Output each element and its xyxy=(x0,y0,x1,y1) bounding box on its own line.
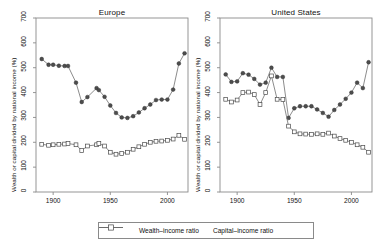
data-point-marker xyxy=(47,63,51,67)
plot-frame xyxy=(220,18,372,192)
data-point-marker xyxy=(137,111,141,115)
data-point-marker xyxy=(47,143,51,147)
series-line xyxy=(42,53,185,118)
data-point-marker xyxy=(350,91,354,95)
data-point-marker xyxy=(367,150,371,154)
data-point-marker xyxy=(126,116,130,120)
data-point-marker xyxy=(120,152,124,156)
data-point-marker xyxy=(51,63,55,67)
data-point-marker xyxy=(247,90,251,94)
data-point-marker xyxy=(103,144,107,148)
data-point-marker xyxy=(108,104,112,108)
data-point-marker xyxy=(270,66,274,70)
data-point-marker xyxy=(57,142,61,146)
data-point-marker xyxy=(264,91,268,95)
data-point-marker xyxy=(230,100,234,104)
data-point-marker xyxy=(321,132,325,136)
data-point-marker xyxy=(154,139,158,143)
data-point-marker xyxy=(74,143,78,147)
data-point-marker xyxy=(154,98,158,102)
legend-label-wealth: Wealth–income ratio xyxy=(139,227,199,234)
data-point-marker xyxy=(355,143,359,147)
data-point-marker xyxy=(298,104,302,108)
data-point-marker xyxy=(57,64,61,68)
data-point-marker xyxy=(298,132,302,136)
data-point-marker xyxy=(264,81,268,85)
data-point-marker xyxy=(148,140,152,144)
data-point-marker xyxy=(126,150,130,154)
data-point-marker xyxy=(143,142,147,146)
data-point-marker xyxy=(275,75,279,79)
legend-label-capital: Capital–income ratio xyxy=(213,227,273,234)
data-point-marker xyxy=(332,134,336,138)
chart-legend: Wealth–income ratio Capital–income ratio xyxy=(98,222,314,239)
data-point-marker xyxy=(252,77,256,81)
data-point-marker xyxy=(270,74,274,78)
data-point-marker xyxy=(171,137,175,141)
data-point-marker xyxy=(252,93,256,97)
data-point-marker xyxy=(281,75,285,79)
data-point-marker xyxy=(224,73,228,77)
data-point-marker xyxy=(338,137,342,141)
data-point-marker xyxy=(224,97,228,101)
data-point-marker xyxy=(258,83,262,87)
data-point-marker xyxy=(327,115,331,119)
data-point-marker xyxy=(247,73,251,77)
data-point-marker xyxy=(332,108,336,112)
data-point-marker xyxy=(40,57,44,61)
data-point-marker xyxy=(310,132,314,136)
data-point-marker xyxy=(183,51,187,55)
data-point-marker xyxy=(143,106,147,110)
plot-canvas xyxy=(0,0,384,252)
data-point-marker xyxy=(241,71,245,75)
data-point-marker xyxy=(177,62,181,66)
data-point-marker xyxy=(344,138,348,142)
data-point-marker xyxy=(40,142,44,146)
data-point-marker xyxy=(177,133,181,137)
data-point-marker xyxy=(350,140,354,144)
data-point-marker xyxy=(292,130,296,134)
data-point-marker xyxy=(160,98,164,102)
data-point-marker xyxy=(321,111,325,115)
data-point-marker xyxy=(166,98,170,102)
data-point-marker xyxy=(86,144,90,148)
data-point-marker xyxy=(80,149,84,153)
data-point-marker xyxy=(148,103,152,107)
data-point-marker xyxy=(367,60,371,64)
data-point-marker xyxy=(361,145,365,149)
legend-item-wealth: Wealth–income ratio xyxy=(139,227,199,234)
data-point-marker xyxy=(183,137,187,141)
data-point-marker xyxy=(327,131,331,135)
chart-root: Europe Wealth or capital divided by nati… xyxy=(0,0,384,252)
data-point-marker xyxy=(344,97,348,101)
data-point-marker xyxy=(258,103,262,107)
data-point-marker xyxy=(338,103,342,107)
data-point-marker xyxy=(166,138,170,142)
data-point-marker xyxy=(281,98,285,102)
legend-item-capital: Capital–income ratio xyxy=(213,227,273,234)
data-point-marker xyxy=(315,108,319,112)
data-point-marker xyxy=(66,142,70,146)
data-point-marker xyxy=(137,145,141,149)
data-point-marker xyxy=(120,116,124,120)
data-point-marker xyxy=(86,95,90,99)
data-point-marker xyxy=(66,64,70,68)
data-point-marker xyxy=(51,143,55,147)
data-point-marker xyxy=(97,88,101,92)
data-point-marker xyxy=(361,86,365,90)
data-point-marker xyxy=(97,142,101,146)
data-point-marker xyxy=(74,81,78,85)
data-point-marker xyxy=(160,139,164,143)
data-point-marker xyxy=(275,97,279,101)
data-point-marker xyxy=(114,111,118,115)
data-point-marker xyxy=(355,81,359,85)
data-point-marker xyxy=(108,150,112,154)
data-point-marker xyxy=(310,104,314,108)
data-point-marker xyxy=(241,91,245,95)
legend-marker-open-square xyxy=(99,223,123,232)
data-point-marker xyxy=(131,147,135,151)
data-point-marker xyxy=(80,100,84,104)
data-point-marker xyxy=(304,104,308,108)
data-point-marker xyxy=(304,132,308,136)
data-point-marker xyxy=(171,88,175,92)
